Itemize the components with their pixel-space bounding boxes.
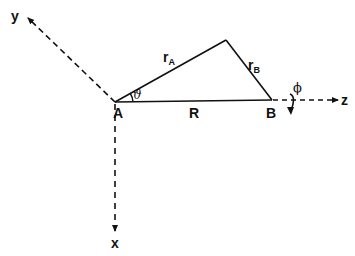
edge-R-label: R xyxy=(189,105,199,121)
phi-label: ϕ xyxy=(293,80,302,95)
point-B-label: B xyxy=(266,105,276,121)
theta-label: ϑ xyxy=(133,88,142,102)
edge-rA xyxy=(115,40,226,102)
z-axis-label: z xyxy=(341,92,348,108)
edge-rB-label: rB xyxy=(248,57,260,75)
phi-arrowhead-icon xyxy=(287,107,294,115)
coordinate-diagram: y x z A B R rA rB ϑ ϕ xyxy=(0,0,355,256)
x-axis-label: x xyxy=(111,235,119,251)
point-A-label: A xyxy=(113,105,123,121)
y-axis xyxy=(28,18,115,102)
edge-rA-label: rA xyxy=(163,49,175,67)
y-axis-label: y xyxy=(11,8,19,24)
